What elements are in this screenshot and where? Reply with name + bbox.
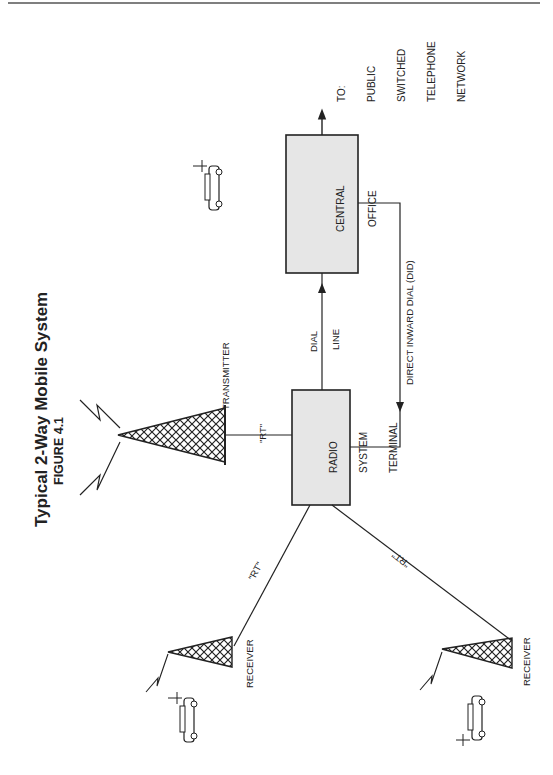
transmitter-tower-icon: [80, 400, 225, 495]
receiver-1-label: RECEIVER: [245, 639, 255, 688]
did-label: DIRECT INWARD DIAL (DID): [405, 260, 415, 385]
pstn-line3: SWITCHED: [397, 41, 407, 102]
radio-terminal-label: RADIO SYSTEM TERMINAL: [309, 422, 409, 473]
pstn-line2: PUBLIC: [367, 41, 377, 102]
pstn-label: TO: PUBLIC SWITCHED TELEPHONE NETWORK: [317, 41, 477, 102]
receiver-1-tower-icon: [146, 637, 232, 692]
diagram-canvas: [0, 0, 553, 775]
central-office-line2: OFFICE: [368, 185, 379, 232]
dial-line-arrow-icon: [318, 283, 326, 293]
receiver-2-label: RECEIVER: [522, 637, 532, 686]
mobile-car-icon-2: [168, 692, 197, 742]
mobile-car-icon-3: [456, 696, 485, 746]
radio-terminal-line1: RADIO: [329, 422, 339, 473]
pstn-line4: TELEPHONE: [427, 41, 437, 102]
central-office-line1: CENTRAL: [336, 185, 347, 232]
line-label: LINE: [331, 329, 341, 350]
rt-label-transmitter: "RT": [258, 424, 268, 443]
did-arrow-icon: [396, 402, 404, 412]
receiver-2-tower-icon: [420, 638, 512, 690]
pstn-line1: TO:: [337, 41, 347, 102]
radio-terminal-line3: TERMINAL: [389, 422, 399, 473]
figure-number: FIGURE 4.1: [53, 417, 66, 485]
transmitter-label: TRANSMITTER: [221, 342, 231, 410]
pstn-line5: NETWORK: [457, 41, 467, 102]
dial-label: DIAL: [309, 331, 319, 352]
figure-title: Typical 2-Way Mobile System: [33, 292, 51, 527]
central-office-label: CENTRAL OFFICE: [315, 185, 389, 232]
radio-terminal-line2: SYSTEM: [359, 422, 369, 473]
rt-link-receiver-2: [332, 505, 512, 641]
mobile-car-icon-1: [193, 160, 222, 210]
